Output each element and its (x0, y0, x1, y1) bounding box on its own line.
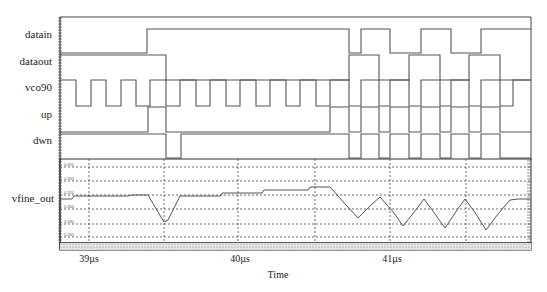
ytick-0: 0.355 (64, 162, 75, 167)
label-vco90: vco90 (25, 81, 52, 93)
ytick-5: 0.265 (64, 232, 75, 237)
wave-dwn (60, 134, 531, 158)
wave-dataout (60, 55, 531, 80)
label-vfine-out: vfine_out (12, 192, 54, 204)
ytick-1: 0.333 (64, 176, 75, 181)
label-dataout: dataout (20, 55, 52, 67)
xtick-39us: 39µs (79, 253, 99, 264)
xtick-40us: 40µs (230, 253, 250, 264)
wave-vfine-out (60, 187, 530, 230)
wave-datain (60, 29, 531, 53)
xtick-41us: 41µs (382, 253, 402, 264)
analog-plot: 0.355 0.333 0.320 0.300 0.280 0.265 (60, 159, 531, 250)
ytick-4: 0.280 (64, 219, 75, 224)
wave-up (60, 107, 531, 132)
ytick-2: 0.320 (64, 190, 75, 195)
label-dwn: dwn (33, 134, 52, 146)
x-axis-title: Time (268, 269, 289, 280)
waveform-chart: datain dataout vco90 up dwn vfine_out (0, 0, 547, 292)
ytick-3: 0.300 (64, 204, 75, 209)
digital-waveforms (60, 29, 531, 158)
label-datain: datain (25, 28, 52, 40)
wave-vco90 (60, 80, 531, 106)
label-up: up (41, 108, 53, 120)
